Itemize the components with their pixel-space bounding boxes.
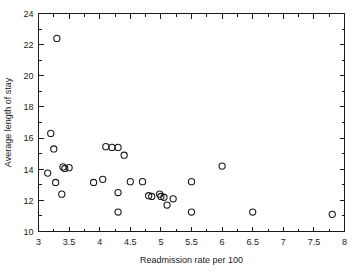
data-point	[164, 202, 170, 208]
data-point	[115, 209, 121, 215]
data-point	[188, 209, 194, 215]
data-point	[60, 164, 66, 170]
data-point	[66, 165, 72, 171]
y-tick-label: 18	[23, 102, 33, 112]
data-point	[100, 176, 106, 182]
data-point	[54, 35, 60, 41]
y-tick-label: 16	[23, 133, 33, 143]
y-tick-label: 14	[23, 165, 33, 175]
data-point	[103, 144, 109, 150]
x-tick-label: 8	[342, 237, 347, 247]
x-tick-label: 7	[281, 237, 286, 247]
y-tick-label: 20	[23, 71, 33, 81]
x-tick-label: 5.5	[185, 237, 198, 247]
data-point	[115, 144, 121, 150]
data-point	[219, 163, 225, 169]
x-tick-label: 6.5	[246, 237, 259, 247]
data-point	[90, 179, 96, 185]
scatter-plot-figure: 33.544.555.566.577.581012141618202224Rea…	[0, 0, 355, 273]
y-axis-title: Average length of stay	[3, 77, 13, 167]
data-point	[45, 170, 51, 176]
x-tick-label: 7.5	[308, 237, 321, 247]
plot-frame	[39, 14, 345, 232]
x-tick-label: 3.5	[63, 237, 76, 247]
data-point	[48, 130, 54, 136]
y-tick-label: 22	[23, 40, 33, 50]
data-point	[53, 179, 59, 185]
y-tick-label: 24	[23, 9, 33, 19]
data-point	[127, 179, 133, 185]
data-point	[250, 209, 256, 215]
y-tick-label: 12	[23, 196, 33, 206]
scatter-plot-canvas: 33.544.555.566.577.581012141618202224Rea…	[0, 0, 355, 273]
data-point	[170, 196, 176, 202]
x-tick-label: 6	[220, 237, 225, 247]
x-axis-title: Readmission rate per 100	[140, 255, 243, 265]
x-tick-label: 3	[36, 237, 41, 247]
data-point	[329, 211, 335, 217]
x-tick-label: 4.5	[124, 237, 137, 247]
data-point	[115, 189, 121, 195]
data-point	[109, 144, 115, 150]
x-tick-label: 4	[97, 237, 102, 247]
data-point	[139, 179, 145, 185]
data-point	[51, 146, 57, 152]
data-points-group	[45, 35, 336, 217]
data-point	[59, 191, 65, 197]
data-point	[188, 179, 194, 185]
x-tick-label: 5	[158, 237, 163, 247]
y-tick-label: 10	[23, 227, 33, 237]
data-point	[121, 152, 127, 158]
